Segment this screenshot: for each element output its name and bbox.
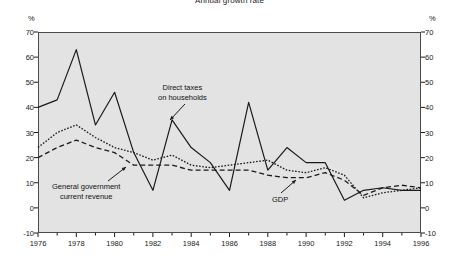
annotation-direct-taxes-line2: on households: [158, 93, 207, 102]
annotation-gdp-line1: GDP: [272, 195, 288, 204]
x-tick-1986: 1986: [212, 239, 248, 248]
y-tick-left-neg10: -10: [12, 229, 34, 238]
y-tick-right-neg10: -10: [425, 229, 447, 238]
x-tick-1992: 1992: [326, 239, 362, 248]
y-tick-right-10: 10: [425, 178, 447, 187]
x-tick-1976: 1976: [20, 239, 56, 248]
y-tick-right-50: 50: [425, 78, 447, 87]
y-tick-right-60: 60: [425, 53, 447, 62]
x-tick-1988: 1988: [250, 239, 286, 248]
y-tick-left-40: 40: [12, 103, 34, 112]
x-tick-1994: 1994: [365, 239, 401, 248]
x-tick-1978: 1978: [58, 239, 94, 248]
x-tick-1984: 1984: [173, 239, 209, 248]
annotation-government-revenue: General government current revenue: [52, 182, 120, 201]
x-tick-1996: 1996: [403, 239, 439, 248]
y-tick-right-20: 20: [425, 153, 447, 162]
y-tick-left-10: 10: [12, 178, 34, 187]
y-tick-left-20: 20: [12, 153, 34, 162]
x-tick-1980: 1980: [97, 239, 133, 248]
y-tick-right-30: 30: [425, 128, 447, 137]
y-tick-left-60: 60: [12, 53, 34, 62]
plot-area: [38, 32, 421, 233]
x-tick-1982: 1982: [135, 239, 171, 248]
annotation-gdp: GDP: [272, 195, 288, 205]
annotation-government-revenue-line2: current revenue: [60, 192, 113, 201]
y-tick-left-70: 70: [12, 28, 34, 37]
y-axis-unit-right: %: [429, 14, 436, 23]
y-tick-right-40: 40: [425, 103, 447, 112]
annotation-government-revenue-line1: General government: [52, 182, 120, 191]
chart-container: Annual growth rate % % 70706060505040403…: [0, 0, 459, 265]
annotation-direct-taxes: Direct taxes on households: [158, 83, 207, 102]
y-tick-right-0: 0: [425, 203, 447, 212]
y-tick-left-50: 50: [12, 78, 34, 87]
annotation-direct-taxes-line1: Direct taxes: [163, 83, 203, 92]
chart-title: Annual growth rate: [0, 0, 459, 5]
y-tick-right-70: 70: [425, 28, 447, 37]
y-tick-left-0: 0: [12, 203, 34, 212]
x-tick-1990: 1990: [288, 239, 324, 248]
y-tick-left-30: 30: [12, 128, 34, 137]
y-axis-unit-left: %: [28, 14, 35, 23]
